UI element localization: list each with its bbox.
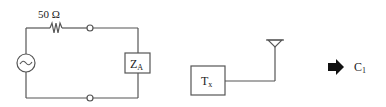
- resistor-label: 50 Ω: [38, 8, 60, 20]
- transmitter-antenna: Tx: [191, 40, 284, 95]
- bottom-terminal-icon: [87, 95, 93, 101]
- result-indicator: C1: [328, 59, 366, 75]
- diagram-canvas: ZA 50 Ω Tx C1: [0, 0, 386, 107]
- result-label: C1: [354, 60, 366, 75]
- antenna-icon: [268, 40, 282, 47]
- equivalent-circuit: ZA 50 Ω: [17, 8, 150, 101]
- resistor-icon: [50, 23, 62, 33]
- right-arrow-icon: [328, 59, 344, 75]
- top-terminal-icon: [87, 25, 93, 31]
